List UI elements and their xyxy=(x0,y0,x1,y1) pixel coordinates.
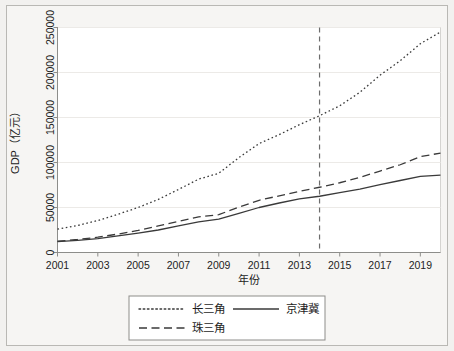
x-axis-ticks: 2001200320052007200920112013201520172019 xyxy=(46,253,432,271)
x-tick-label: 2005 xyxy=(126,259,150,271)
gdp-line-chart: 050000100000150000200000250000 200120032… xyxy=(0,0,454,351)
x-tick-label: 2009 xyxy=(207,259,231,271)
legend-label-1: 京津冀 xyxy=(286,302,319,315)
chart-legend: 长三角京津冀珠三角 xyxy=(129,296,325,340)
x-tick-label: 2015 xyxy=(328,259,352,271)
x-tick-label: 2017 xyxy=(368,259,392,271)
y-tick-label: 200000 xyxy=(44,55,56,90)
y-axis-ticks: 050000100000150000200000250000 xyxy=(44,10,58,256)
legend-label-0: 长三角 xyxy=(192,303,225,315)
y-tick-label: 0 xyxy=(44,249,56,255)
y-tick-label: 100000 xyxy=(44,145,56,180)
plot-background xyxy=(58,28,441,253)
x-tick-label: 2019 xyxy=(409,259,433,271)
plot-area-background xyxy=(58,28,441,253)
y-tick-label: 150000 xyxy=(44,100,56,135)
x-tick-label: 2001 xyxy=(46,259,70,271)
y-tick-label: 250000 xyxy=(44,10,56,45)
figure-canvas: 050000100000150000200000250000 200120032… xyxy=(0,0,454,351)
x-tick-label: 2013 xyxy=(288,259,312,271)
x-tick-label: 2007 xyxy=(167,259,191,271)
y-axis-title: GDP（亿元） xyxy=(9,106,21,174)
y-tick-label: 50000 xyxy=(44,193,56,222)
x-tick-label: 2011 xyxy=(248,259,271,271)
legend-label-2: 珠三角 xyxy=(192,321,225,334)
x-tick-label: 2003 xyxy=(86,259,110,271)
x-axis-title: 年份 xyxy=(238,273,260,286)
